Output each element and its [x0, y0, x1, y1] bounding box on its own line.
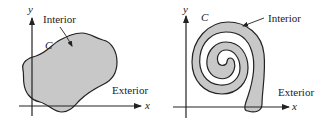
figure-canvas: y x Interior C Exterior y x Interior C E…: [0, 0, 332, 125]
curve-label: C: [45, 39, 53, 51]
interior-label: Interior: [43, 13, 76, 25]
panel-spiral-region: y x Interior C Exterior: [173, 3, 314, 118]
y-axis-label: y: [27, 3, 33, 15]
simple-closed-curve: [23, 33, 117, 112]
exterior-label: Exterior: [278, 86, 314, 98]
curve-label: C: [201, 11, 209, 23]
x-axis-label: x: [144, 99, 150, 111]
panel-simple-region: y x Interior C Exterior: [19, 3, 150, 116]
spiral-closed-curve: [192, 22, 265, 112]
interior-label: Interior: [268, 12, 301, 24]
exterior-label: Exterior: [112, 84, 148, 96]
x-axis-label: x: [291, 100, 297, 112]
interior-pointer-arrow-icon: [243, 18, 264, 26]
y-axis-label: y: [182, 3, 188, 15]
